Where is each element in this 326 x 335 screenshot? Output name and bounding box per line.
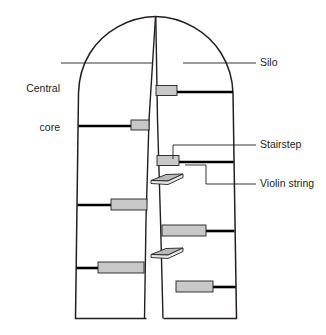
label-central-core-line2: core (6, 121, 60, 134)
silo-diagram: Central core Silo Stairstep Violin strin… (0, 0, 326, 335)
stairstep-box-r2 (157, 156, 179, 166)
stairstep-box-l1 (131, 120, 149, 130)
violin-string-1 (151, 174, 183, 185)
label-silo: Silo (260, 56, 278, 69)
stairstep-box-r1 (156, 86, 177, 96)
diagram-canvas (0, 0, 326, 335)
central-core-wedge-right (156, 17, 163, 319)
label-central-core-line1: Central (6, 82, 60, 95)
stairstep-box-r3 (162, 225, 206, 236)
label-central-core: Central core (6, 56, 60, 160)
label-stairstep: Stairstep (260, 138, 301, 151)
stairstep-box-r4 (176, 281, 213, 292)
leader-stairstep (173, 145, 256, 159)
stairstep-box-l2 (111, 199, 147, 210)
silo-outer-wall-right (156, 17, 237, 319)
label-violin-string: Violin string (260, 177, 314, 190)
violin-string-2 (151, 248, 183, 259)
central-core-wedge (145, 17, 156, 319)
leader-violin-string (185, 165, 256, 184)
stairstep-box-l3 (98, 262, 144, 273)
